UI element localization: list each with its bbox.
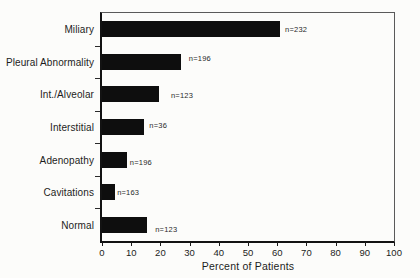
bar: [102, 54, 181, 70]
category-label: Cavitations: [43, 187, 94, 198]
x-axis-title: Percent of Patients: [202, 260, 295, 272]
category-label: Int./Alveolar: [40, 89, 94, 100]
x-axis-tick: [160, 242, 161, 246]
x-axis-tick-label: 100: [386, 247, 402, 258]
bar: [102, 119, 144, 135]
x-axis-tick: [219, 242, 220, 246]
y-axis-tick: [95, 208, 100, 209]
y-axis-tick: [95, 111, 100, 112]
x-axis-tick: [248, 242, 249, 246]
bar-count-label: n=36: [149, 121, 167, 130]
x-axis-tick-label: 0: [99, 247, 104, 258]
bar-count-label: n=123: [155, 224, 177, 233]
bar-count-label: n=123: [171, 91, 193, 100]
x-axis-tick-label: 40: [214, 247, 225, 258]
x-axis-tick: [365, 242, 366, 246]
x-axis-tick: [102, 242, 103, 246]
bar-count-label: n=196: [130, 157, 152, 166]
y-axis-tick: [95, 46, 100, 47]
plot-area: Percent of Patients n=232n=196n=123n=36n…: [100, 12, 395, 243]
x-axis-tick: [336, 242, 337, 246]
category-label: Interstitial: [50, 122, 94, 133]
bar-count-label: n=196: [189, 53, 211, 62]
y-axis-tick: [95, 176, 100, 177]
bar: [102, 21, 280, 37]
x-axis-tick-label: 20: [155, 247, 166, 258]
category-axis-labels: MiliaryPleural AbnormalityInt./AlveolarI…: [0, 13, 94, 241]
bar-count-label: n=232: [285, 25, 307, 34]
x-axis-tick-label: 60: [272, 247, 283, 258]
x-axis-tick-label: 70: [301, 247, 312, 258]
x-axis-tick: [190, 242, 191, 246]
x-axis-tick: [131, 242, 132, 246]
x-axis-tick: [306, 242, 307, 246]
x-axis-tick-label: 30: [184, 247, 195, 258]
x-axis-tick: [394, 242, 395, 246]
x-axis-tick-label: 10: [126, 247, 137, 258]
bar-chart-figure: MiliaryPleural AbnormalityInt./AlveolarI…: [0, 0, 420, 278]
x-axis-tick: [277, 242, 278, 246]
category-label: Pleural Abnormality: [6, 56, 94, 67]
x-axis-tick-label: 80: [330, 247, 341, 258]
category-label: Normal: [61, 219, 94, 230]
bar: [102, 152, 127, 168]
y-axis-tick: [95, 78, 100, 79]
bar-count-label: n=163: [117, 188, 139, 197]
bar: [102, 217, 147, 233]
category-label: Miliary: [64, 24, 94, 35]
category-label: Adenopathy: [40, 154, 94, 165]
x-axis-tick-label: 90: [360, 247, 371, 258]
y-axis-tick: [95, 143, 100, 144]
bar: [102, 86, 159, 102]
x-axis-tick-label: 50: [243, 247, 254, 258]
bar: [102, 184, 115, 200]
